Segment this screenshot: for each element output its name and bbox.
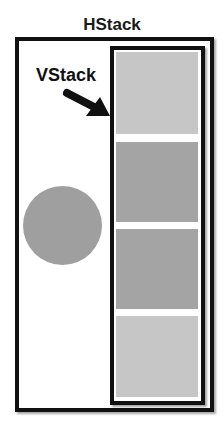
arrow-icon xyxy=(0,0,224,429)
